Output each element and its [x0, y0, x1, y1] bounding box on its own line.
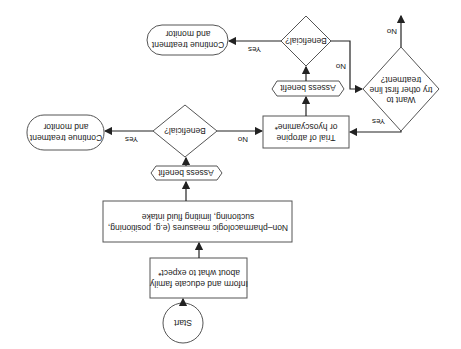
assess-benefit-1-node: Assess benefit — [151, 166, 222, 180]
want-yes-label: Yes — [372, 117, 385, 126]
beneficial-2-decision: Beneficial? — [281, 16, 331, 66]
flowchart: Start Inform and educate family about wh… — [0, 0, 461, 349]
continue2-line-1: Continue treatment — [151, 40, 224, 50]
assess1-label: Assess benefit — [158, 168, 214, 178]
b2-yes-label: Yes — [248, 45, 261, 54]
want-line-1: Want to — [386, 95, 415, 105]
trial-line-1: Trial of atropine — [276, 133, 335, 143]
continue-treatment-2-node: Continue treatment and monitor — [147, 25, 228, 55]
want-line-3: treatment? — [380, 75, 421, 85]
inform-line-1: Inform and educate family — [149, 279, 248, 289]
nonpharm-node: Non–pharmacologic measures (e.g. positio… — [103, 201, 292, 242]
continue1-line-1: Continue treatment — [29, 133, 102, 143]
beneficial-1-decision: Beneficial? — [153, 105, 217, 157]
assess2-label: Assess benefit — [280, 83, 336, 93]
continue1-line-2: and monitor — [43, 122, 88, 132]
want-line-2: try other first line — [369, 85, 432, 95]
start-node: Start — [163, 303, 203, 343]
b2-no-label: No — [335, 62, 346, 71]
edge-want-yes — [350, 131, 401, 132]
b1-no-label: No — [237, 135, 248, 144]
start-label: Start — [173, 318, 192, 328]
continue-treatment-1-node: Continue treatment and monitor — [27, 115, 104, 150]
continue2-line-2: and monitor — [165, 29, 210, 39]
beneficial1-label: Beneficial? — [164, 126, 206, 136]
nonpharm-line-1: Non–pharmacologic measures (e.g. positio… — [108, 223, 288, 233]
inform-line-2: about what to expect* — [157, 268, 239, 278]
flowchart-canvas: Start Inform and educate family about wh… — [0, 0, 461, 349]
nonpharm-line-2: suctioning, limiting fluid intake — [142, 212, 255, 222]
beneficial2-label: Beneficial? — [285, 36, 327, 46]
trial-atropine-node: Trial of atropine or hyoscyamine* — [263, 116, 349, 148]
inform-family-node: Inform and educate family about what to … — [149, 258, 248, 298]
want-no-label: No — [386, 27, 397, 36]
trial-line-2: or hyoscyamine* — [274, 122, 338, 132]
b1-yes-label: Yes — [125, 135, 138, 144]
assess-benefit-2-node: Assess benefit — [272, 81, 344, 96]
